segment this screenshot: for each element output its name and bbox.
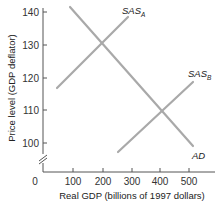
curve-ad: [70, 7, 193, 146]
x-axis-label: Real GDP (billions of 1997 dollars): [59, 190, 205, 201]
svg-text:140: 140: [22, 7, 39, 18]
y-ticks: [43, 12, 47, 143]
svg-text:400: 400: [152, 176, 169, 187]
svg-text:110: 110: [23, 105, 39, 116]
y-axis-label: Price level (GDP deflator): [6, 34, 17, 142]
y-tick-labels: 140 130 120 110 100: [22, 7, 39, 149]
curve-sas-a: [57, 17, 128, 88]
svg-text:200: 200: [95, 176, 112, 187]
svg-text:300: 300: [124, 176, 141, 187]
x-ticks: [73, 168, 189, 172]
svg-text:100: 100: [22, 138, 39, 149]
curve-sas-b: [118, 82, 193, 152]
label-sas-a: SASA: [122, 5, 145, 18]
label-sas-b: SASB: [188, 68, 212, 81]
svg-text:100: 100: [65, 176, 82, 187]
chart: 140 130 120 110 100 0 100 200 300 400 50…: [0, 0, 222, 208]
svg-text:130: 130: [22, 40, 39, 51]
svg-text:0: 0: [32, 176, 38, 187]
svg-text:500: 500: [181, 176, 198, 187]
label-ad: AD: [191, 150, 205, 161]
x-tick-labels: 0 100 200 300 400 500: [32, 176, 198, 187]
svg-text:120: 120: [22, 73, 39, 84]
axis-break-icon: [38, 154, 48, 164]
